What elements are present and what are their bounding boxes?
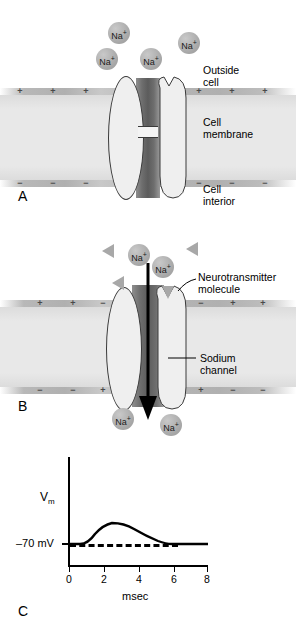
label-cell-membrane-line2: membrane (203, 128, 253, 140)
chart-baseline-label: –70 mV (16, 537, 54, 549)
label-outside-cell-line2: cell (203, 76, 219, 88)
channel-gate-closed (138, 126, 158, 138)
chart-x-tick-label: 6 (164, 573, 184, 585)
label-sodium-channel-line2: channel (200, 364, 237, 376)
panel-a: + + + + + + − − − − − − Na+ Na+ Na+ Na+ … (0, 0, 296, 215)
chart-y-axis-label: Vm (40, 491, 55, 508)
panel-label-c: C (18, 603, 28, 619)
chart-x-tick (139, 567, 140, 572)
chart-x-tick (69, 567, 70, 572)
label-cell-interior-line2: interior (203, 195, 235, 207)
chart-x-tick (207, 567, 208, 572)
panel-b: + + − − + + − − + + − − Na+ Na+ Na+ Na+ … (0, 215, 296, 435)
chart-x-axis-label: msec (122, 590, 148, 602)
sodium-ion: Na+ (140, 48, 162, 70)
leader-lines (0, 215, 296, 435)
chart-x-tick (174, 567, 175, 572)
chart-x-tick (104, 567, 105, 572)
label-outside-cell-line1: Outside (203, 64, 239, 76)
channel-lobe-right-notched (0, 0, 296, 215)
label-neurotransmitter-line1: Neurotransmitter (198, 271, 276, 283)
chart-y-axis-label-base: V (40, 490, 48, 504)
panel-label-a: A (18, 188, 27, 204)
chart-x-tick-label: 8 (197, 573, 217, 585)
chart-x-tick-label: 0 (59, 573, 79, 585)
chart-y-axis-label-sub: m (48, 497, 55, 506)
sodium-ion: Na+ (96, 48, 118, 70)
panel-c: 0 2 4 6 8 Vm –70 mV msec C (0, 435, 296, 626)
chart-x-tick-label: 4 (129, 573, 149, 585)
sodium-ion: Na+ (178, 32, 200, 54)
panel-label-b: B (18, 398, 27, 414)
label-cell-membrane-line1: Cell (203, 116, 221, 128)
sodium-ion: Na+ (108, 22, 130, 44)
label-sodium-channel-line1: Sodium (200, 352, 236, 364)
label-neurotransmitter-line2: molecule (198, 283, 240, 295)
label-cell-interior-line1: Cell (203, 183, 221, 195)
chart-x-tick-label: 2 (94, 573, 114, 585)
